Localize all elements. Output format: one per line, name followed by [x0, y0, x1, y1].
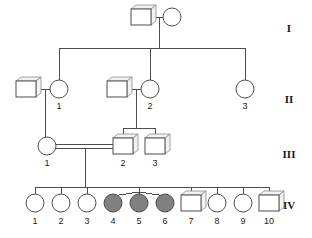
individual-I-1-male-square[interactable] — [131, 5, 156, 25]
square-symbol — [259, 195, 279, 211]
individual-number-IV-1: 1 — [32, 216, 37, 226]
generation-label-II: II — [285, 93, 294, 105]
generation-IV-group: 1 2 3 4 5 6 — [26, 191, 284, 226]
individual-IV-1-female-circle[interactable]: 1 — [26, 194, 44, 226]
individual-III-3-male-square[interactable]: 3 — [145, 134, 170, 168]
individual-II-1-female-circle[interactable]: 1 — [50, 80, 68, 111]
generation-I-group — [131, 5, 181, 48]
individual-number-II-3: 3 — [242, 101, 247, 111]
circle-symbol — [234, 194, 252, 212]
individual-number-II-1: 1 — [56, 101, 61, 111]
square-symbol — [131, 9, 151, 25]
individual-II-A-male-square[interactable] — [16, 77, 41, 97]
box-side-face-icon — [133, 134, 138, 154]
individual-IV-10-male-square[interactable]: 10 — [259, 191, 284, 226]
generation-label-I: I — [287, 22, 291, 34]
square-symbol — [113, 138, 133, 154]
individual-III-2-male-square[interactable]: 2 — [113, 134, 138, 168]
circle-symbol-affected — [104, 194, 122, 212]
box-side-face-icon — [127, 77, 132, 97]
box-side-face-icon — [165, 134, 170, 154]
circle-symbol — [26, 194, 44, 212]
circle-symbol — [50, 80, 68, 98]
circle-symbol — [208, 194, 226, 212]
individual-number-II-2: 2 — [147, 101, 152, 111]
individual-number-IV-10: 10 — [264, 216, 274, 226]
circle-symbol — [141, 80, 159, 98]
square-symbol — [181, 195, 201, 211]
individual-number-IV-4: 4 — [110, 216, 115, 226]
generation-III-group: 1 2 3 — [38, 134, 170, 187]
individual-number-III-2: 2 — [120, 158, 125, 168]
box-side-face-icon — [36, 77, 41, 97]
individual-IV-4-female-circle-affected[interactable]: 4 — [104, 194, 122, 226]
individual-III-1-female-circle[interactable]: 1 — [38, 137, 56, 168]
individual-IV-5-female-circle-affected[interactable]: 5 — [130, 194, 148, 226]
individual-number-III-1: 1 — [44, 158, 49, 168]
square-symbol — [16, 81, 36, 97]
individual-IV-9-female-circle[interactable]: 9 — [234, 194, 252, 226]
individual-number-IV-8: 8 — [214, 216, 219, 226]
individual-IV-8-female-circle[interactable]: 8 — [208, 194, 226, 226]
individual-I-2-female-circle[interactable] — [163, 8, 181, 26]
individual-number-IV-9: 9 — [240, 216, 245, 226]
individual-IV-6-female-circle-affected[interactable]: 6 — [156, 194, 174, 226]
box-side-face-icon — [201, 191, 206, 211]
individual-II-B-male-square[interactable] — [107, 77, 132, 97]
individual-number-IV-2: 2 — [58, 216, 63, 226]
generation-labels-group: I II III IV — [283, 22, 296, 211]
individual-II-2-female-circle[interactable]: 2 — [141, 80, 159, 111]
square-symbol — [107, 81, 127, 97]
circle-symbol — [163, 8, 181, 26]
circle-symbol — [38, 137, 56, 155]
individual-number-IV-6: 6 — [162, 216, 167, 226]
individual-IV-2-female-circle[interactable]: 2 — [52, 194, 70, 226]
generation-label-III: III — [283, 148, 296, 160]
individual-IV-3-female-circle[interactable]: 3 — [78, 194, 96, 226]
pedigree-diagram: 1 2 3 — [0, 0, 312, 238]
box-side-face-icon — [151, 5, 156, 25]
sibship-IV-connector-group — [35, 187, 269, 196]
individual-II-3-female-circle[interactable]: 3 — [236, 80, 254, 111]
individual-number-IV-7: 7 — [188, 216, 193, 226]
circle-symbol-affected — [156, 194, 174, 212]
circle-symbol-affected — [130, 194, 148, 212]
individual-number-IV-5: 5 — [136, 216, 141, 226]
sibship-II-connector-group — [59, 48, 245, 80]
individual-number-III-3: 3 — [152, 158, 157, 168]
circle-symbol — [236, 80, 254, 98]
pedigree-chart: 1 2 3 — [0, 0, 312, 238]
generation-label-IV: IV — [283, 199, 295, 211]
individual-number-IV-3: 3 — [84, 216, 89, 226]
individual-IV-7-male-square[interactable]: 7 — [181, 191, 206, 226]
circle-symbol — [78, 194, 96, 212]
circle-symbol — [52, 194, 70, 212]
square-symbol — [145, 138, 165, 154]
